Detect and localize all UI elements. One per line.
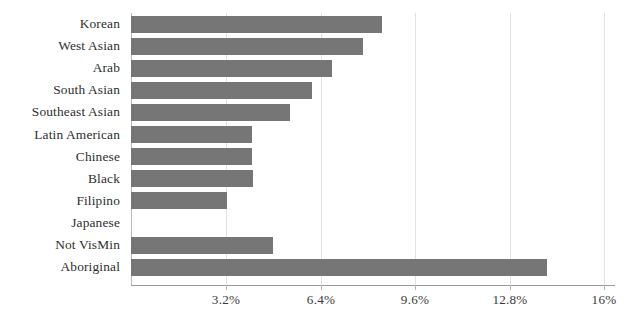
category-label: Japanese — [71, 212, 120, 234]
bar-row: Latin American — [0, 124, 634, 146]
x-tick-label: 16% — [592, 292, 617, 308]
bar-row: Korean — [0, 13, 634, 35]
category-label: Not VisMin — [55, 234, 120, 256]
bar-south-asian — [131, 82, 312, 99]
bar-row: Chinese — [0, 146, 634, 168]
x-tick-label: 9.6% — [401, 292, 429, 308]
category-label: Filipino — [76, 190, 120, 212]
x-tick-label: 6.4% — [307, 292, 335, 308]
bar-row: South Asian — [0, 79, 634, 101]
bar-row: Southeast Asian — [0, 101, 634, 123]
x-axis-tick-labels: 3.2% 6.4% 9.6% 12.8% 16% — [0, 292, 634, 312]
x-axis-tick — [415, 285, 416, 290]
x-axis-line — [131, 285, 615, 286]
bar-rows: Korean West Asian Arab South Asian South… — [0, 13, 634, 285]
bar-row: Filipino — [0, 190, 634, 212]
bar-southeast-asian — [131, 104, 290, 121]
bar-latin-american — [131, 126, 252, 143]
bar-row: Japanese — [0, 212, 634, 234]
category-label: Arab — [93, 57, 120, 79]
category-label: South Asian — [53, 79, 120, 101]
category-label: Southeast Asian — [32, 101, 120, 123]
x-axis-tick — [226, 285, 227, 290]
bar-west-asian — [131, 38, 363, 55]
category-label: Chinese — [76, 146, 120, 168]
bar-chart: Korean West Asian Arab South Asian South… — [0, 0, 634, 326]
x-axis-tick — [321, 285, 322, 290]
bar-filipino — [131, 192, 227, 209]
category-label: Latin American — [34, 124, 120, 146]
bar-black — [131, 170, 253, 187]
bar-arab — [131, 60, 332, 77]
bar-row: Not VisMin — [0, 234, 634, 256]
category-label: Aboriginal — [60, 256, 120, 278]
x-axis-tick — [604, 285, 605, 290]
bar-row: Aboriginal — [0, 256, 634, 278]
category-label: Black — [88, 168, 120, 190]
bar-aboriginal — [131, 259, 547, 276]
category-label: Korean — [80, 13, 120, 35]
bar-row: Black — [0, 168, 634, 190]
bar-chinese — [131, 148, 252, 165]
bar-row: Arab — [0, 57, 634, 79]
bar-not-vismin — [131, 237, 273, 254]
category-label: West Asian — [58, 35, 120, 57]
bar-row: West Asian — [0, 35, 634, 57]
x-tick-label: 12.8% — [492, 292, 527, 308]
x-axis-tick — [510, 285, 511, 290]
bar-korean — [131, 16, 382, 33]
x-tick-label: 3.2% — [212, 292, 240, 308]
